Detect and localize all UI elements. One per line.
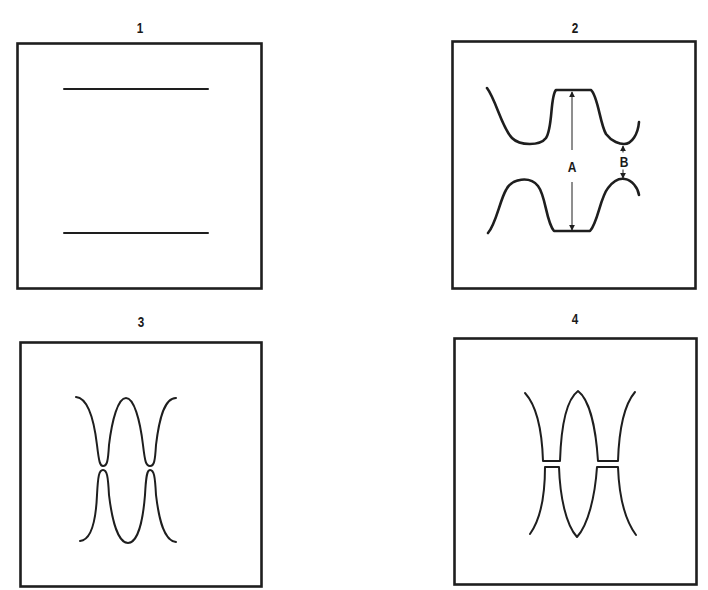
panel-3-frame [21,343,262,587]
panel-3-lower-trace [80,470,176,543]
panel-4-label: 4 [572,311,579,326]
figure-drawing [0,0,708,590]
panel-3-upper-trace [76,397,176,466]
panel-1-frame [18,44,262,289]
oscilloscope-patterns-figure: 1 2 3 4 A B [0,0,708,590]
dimension-b-label: B [620,153,629,170]
panel-4-lower-trace [530,467,636,537]
panel-4-upper-trace [525,391,635,461]
panel-1-label: 1 [137,20,144,35]
panel-4-frame [455,339,697,585]
panel-4 [455,339,697,585]
panel-3 [21,343,262,587]
panel-2-upper-trace [487,88,639,144]
panel-3-label: 3 [138,314,145,329]
panel-1 [18,44,262,289]
panel-2-lower-trace [488,179,639,233]
panel-2-label: 2 [572,20,579,35]
dimension-a-label: A [568,158,577,175]
